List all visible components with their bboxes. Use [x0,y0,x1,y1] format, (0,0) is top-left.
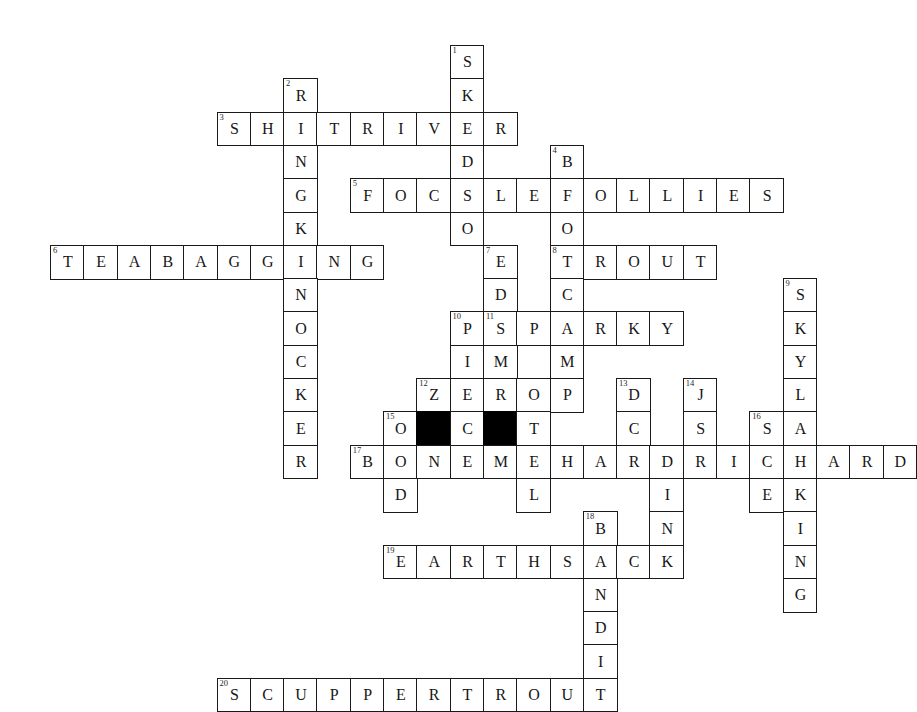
crossword-cell[interactable]: A [416,545,451,580]
crossword-cell[interactable]: S [450,178,485,213]
crossword-cell[interactable]: G [250,245,285,280]
crossword-cell[interactable]: N [416,445,451,480]
crossword-cell[interactable]: 13D [616,378,651,413]
crossword-cell[interactable]: 20S [217,678,252,712]
crossword-cell[interactable]: O [383,178,418,213]
crossword-cell[interactable]: I [683,178,718,213]
crossword-cell[interactable]: D [583,611,618,646]
crossword-cell[interactable]: U [649,245,684,280]
crossword-cell[interactable]: K [283,378,318,413]
crossword-cell[interactable]: E [383,678,418,712]
crossword-cell[interactable]: E [516,178,551,213]
crossword-cell[interactable]: G [783,578,818,613]
crossword-cell[interactable]: 15O [383,411,418,446]
crossword-cell[interactable]: M [483,345,518,380]
crossword-cell[interactable]: 17B [350,445,385,480]
crossword-cell[interactable]: I [716,445,751,480]
crossword-cell[interactable]: 1S [450,45,485,80]
crossword-cell[interactable]: C [616,545,651,580]
crossword-cell[interactable]: K [450,78,485,113]
crossword-cell[interactable]: L [616,178,651,213]
crossword-cell[interactable]: R [616,445,651,480]
crossword-cell[interactable]: P [550,378,585,413]
crossword-cell[interactable]: C [416,178,451,213]
crossword-cell[interactable]: K [649,545,684,580]
crossword-cell[interactable]: V [416,112,451,147]
crossword-cell[interactable]: I [583,644,618,679]
crossword-cell[interactable]: R [683,445,718,480]
crossword-cell[interactable]: C [450,411,485,446]
crossword-cell[interactable]: 14J [683,378,718,413]
crossword-cell[interactable]: A [816,445,851,480]
crossword-cell[interactable]: U [283,678,318,712]
crossword-cell[interactable]: G [217,245,252,280]
crossword-cell[interactable]: E [450,112,485,147]
crossword-cell[interactable]: 7E [483,245,518,280]
crossword-cell[interactable]: R [483,678,518,712]
crossword-cell[interactable]: 11S [483,311,518,346]
crossword-cell[interactable]: K [616,311,651,346]
crossword-cell[interactable]: A [550,311,585,346]
crossword-cell[interactable]: H [550,445,585,480]
crossword-cell[interactable]: D [383,478,418,513]
crossword-cell[interactable]: S [749,178,784,213]
crossword-cell[interactable]: C [250,678,285,712]
crossword-cell[interactable]: Y [649,311,684,346]
crossword-cell[interactable]: I [649,478,684,513]
crossword-cell[interactable]: 12Z [416,378,451,413]
crossword-cell[interactable]: G [350,245,385,280]
crossword-cell[interactable]: D [483,278,518,313]
crossword-cell[interactable]: E [716,178,751,213]
crossword-cell[interactable]: O [450,212,485,247]
crossword-cell[interactable]: 18B [583,511,618,546]
crossword-cell[interactable]: R [483,112,518,147]
crossword-cell[interactable]: R [350,112,385,147]
crossword-cell[interactable]: T [316,112,351,147]
crossword-cell[interactable]: 5F [350,178,385,213]
crossword-cell[interactable]: K [783,311,818,346]
crossword-cell[interactable]: R [849,445,884,480]
crossword-cell[interactable]: N [649,511,684,546]
crossword-cell[interactable]: N [783,545,818,580]
crossword-cell[interactable]: S [683,411,718,446]
crossword-cell[interactable]: O [383,445,418,480]
crossword-cell[interactable]: D [450,145,485,180]
crossword-cell[interactable]: U [550,678,585,712]
crossword-cell[interactable]: A [783,411,818,446]
crossword-cell[interactable]: D [883,445,917,480]
crossword-cell[interactable]: A [117,245,152,280]
crossword-cell[interactable]: 9S [783,278,818,313]
crossword-cell[interactable]: 10P [450,311,485,346]
crossword-cell[interactable]: R [483,378,518,413]
crossword-cell[interactable]: 3S [217,112,252,147]
crossword-cell[interactable]: 19E [383,545,418,580]
crossword-cell[interactable]: N [283,278,318,313]
crossword-cell[interactable]: I [283,245,318,280]
crossword-cell[interactable]: N [316,245,351,280]
crossword-cell[interactable]: R [583,311,618,346]
crossword-cell[interactable]: I [283,112,318,147]
crossword-cell[interactable]: B [150,245,185,280]
crossword-cell[interactable]: E [749,478,784,513]
crossword-cell[interactable]: R [283,445,318,480]
crossword-cell[interactable]: T [483,545,518,580]
crossword-cell[interactable]: G [283,178,318,213]
crossword-cell[interactable]: E [283,411,318,446]
crossword-cell[interactable]: O [616,245,651,280]
crossword-cell[interactable]: L [516,478,551,513]
crossword-cell[interactable]: O [283,311,318,346]
crossword-cell[interactable]: F [550,178,585,213]
crossword-cell[interactable]: O [516,678,551,712]
crossword-cell[interactable]: M [483,445,518,480]
crossword-cell[interactable]: P [316,678,351,712]
crossword-cell[interactable]: K [283,212,318,247]
crossword-cell[interactable]: T [583,678,618,712]
crossword-cell[interactable]: T [516,411,551,446]
crossword-cell[interactable]: H [516,545,551,580]
crossword-cell[interactable]: C [550,278,585,313]
crossword-cell[interactable]: A [183,245,218,280]
crossword-cell[interactable]: Y [783,345,818,380]
crossword-cell[interactable]: I [383,112,418,147]
crossword-cell[interactable]: 2R [283,78,318,113]
crossword-cell[interactable]: N [283,145,318,180]
